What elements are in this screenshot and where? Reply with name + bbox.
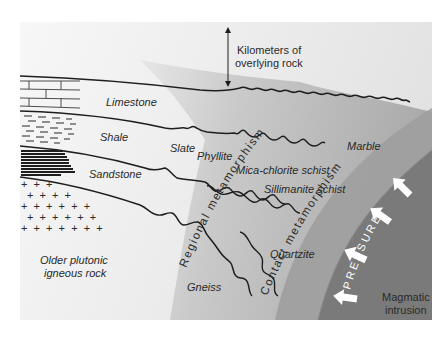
igneous-label-line1: Older plutonic xyxy=(40,254,108,266)
shale-label: Shale xyxy=(100,131,128,143)
igneous-label-line2: igneous rock xyxy=(44,267,107,279)
mica-chlorite-schist-label: Mica-chlorite schist xyxy=(236,164,330,176)
intrusion-label-line2: intrusion xyxy=(385,304,427,316)
limestone-label: Limestone xyxy=(106,96,157,108)
metamorphism-diagram: + + + + + + + + + + + + + + + + + + + + … xyxy=(0,0,447,338)
marble-label: Marble xyxy=(347,140,381,152)
slate-label: Slate xyxy=(170,142,195,154)
phyllite-label: Phyllite xyxy=(197,150,232,162)
overburden-label-line2: overlying rock xyxy=(235,57,303,69)
diagram-canvas: + + + + + + + + + + + + + + + + + + + + … xyxy=(0,0,447,338)
intrusion-label-line1: Magmatic xyxy=(382,291,430,303)
overburden-label-line1: Kilometers of xyxy=(237,44,302,56)
gneiss-label: Gneiss xyxy=(187,281,222,293)
svg-text:+ + + + + + +: + + + + + + + xyxy=(21,222,103,234)
sillimanite-schist-label: Sillimanite schist xyxy=(264,183,346,195)
sandstone-label: Sandstone xyxy=(89,168,142,180)
